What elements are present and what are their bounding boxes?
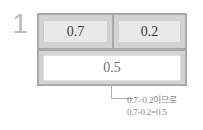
cell-subtrahend-box: 0.2 [118, 20, 181, 43]
annotation-line-2: 0.7-0.2=0.5 [127, 106, 203, 118]
annotation-note: 0.7>0.2이므로 0.7-0.2=0.5 [127, 94, 203, 118]
difference-value: 0.5 [103, 61, 121, 75]
cell-difference-box: 0.5 [43, 55, 181, 81]
subtraction-table: 0.7 0.2 0.5 [37, 13, 187, 86]
problem-number: 1 [8, 8, 32, 40]
cell-minuend[interactable]: 0.7 [39, 15, 112, 48]
annotation-line-1: 0.7>0.2이므로 [127, 94, 203, 106]
minuend-value: 0.7 [67, 25, 85, 39]
cell-minuend-box: 0.7 [43, 20, 108, 43]
subtrahend-value: 0.2 [141, 25, 159, 39]
cell-subtrahend[interactable]: 0.2 [112, 15, 185, 48]
table-row-operands: 0.7 0.2 [39, 15, 185, 48]
worksheet-problem: 1 0.7 0.2 0.5 0.7>0.2이므로 0.7- [0, 0, 203, 130]
table-row-result[interactable]: 0.5 [39, 51, 185, 84]
